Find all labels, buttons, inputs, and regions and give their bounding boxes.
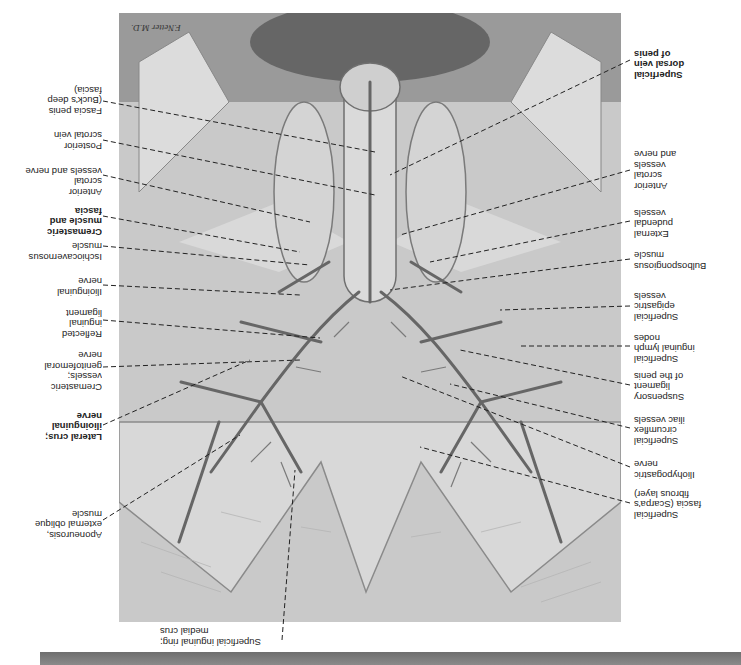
label-posterior-scrotal-vein: Posterior scrotal vein	[20, 130, 102, 151]
label-ilioinguinal-nerve: Ilioinguinal nerve	[20, 276, 102, 297]
label-superficial-dorsal-vein: Superficial dorsal vein of penis	[634, 48, 730, 80]
anatomical-illustration: F.Netter M.D.	[119, 13, 621, 622]
label-superficial-fascia-scarpa: Superficial fascia (Scarpa's fibrous lay…	[634, 488, 730, 520]
label-lateral-crus-ilioinguinal-nerve: Lateral crus; ilioinguinal nerve	[20, 410, 102, 442]
label-superficial-inguinal-ring: Superficial inguinal ring; medial crus	[160, 626, 280, 647]
label-external-pudendal-vessels: External pudendal vessels	[634, 207, 730, 239]
illustration-drawing	[119, 13, 621, 622]
label-bulbospongiosus-muscle: Bulbospongiosus muscle	[634, 250, 730, 271]
label-anterior-scrotal-vessels-right: Anterior scrotal vessels and nerve	[634, 149, 730, 191]
label-reflected-inguinal-ligament: Reflected inguinal ligament	[20, 307, 102, 339]
label-superficial-inguinal-lymph-nodes: Superficial inguinal lymph nodes	[634, 332, 730, 364]
label-anterior-scrotal-vessels-left: Anterior scrotal vessels and nerve	[20, 165, 102, 197]
label-iliohypogastric-nerve: Iliohypogastric nerve	[634, 459, 730, 480]
artist-signature: F.Netter M.D.	[131, 23, 181, 33]
anatomy-figure-page: F.Netter M.D.	[0, 0, 741, 665]
label-aponeurosis-external-oblique: Aponeurosis, external oblique muscle	[20, 508, 102, 540]
label-suspensory-ligament: Suspensory ligament of the penis	[634, 370, 730, 402]
label-superficial-epigastric-vessels: Superficial epigastric vessels	[634, 290, 730, 322]
page-bottom-bar	[40, 652, 741, 665]
label-fascia-penis: Fascia penis (Buck's deep fascia)	[20, 84, 102, 116]
label-cremasteric-vessels-genitofemoral-nerve: Cremasteric vessels; genitofemoral nerve	[20, 350, 102, 392]
label-cremasteric-muscle-and-fascia: Cremasteric muscle and fascia	[20, 205, 102, 237]
label-superficial-circumflex-iliac-vessels: Superficial circumflex iliac vessels	[634, 414, 730, 446]
label-ischiocavernosus-muscle: Ischiocavernosus muscle	[20, 241, 102, 262]
